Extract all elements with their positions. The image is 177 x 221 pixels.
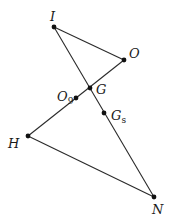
segment-h-n [28, 136, 154, 197]
label-n: N [151, 202, 164, 217]
label-o9: O9 [57, 89, 74, 106]
label-h: H [7, 136, 20, 151]
label-subscript-o9: 9 [68, 96, 74, 106]
point-g [88, 86, 93, 91]
segment-i-o [54, 27, 124, 60]
point-i [52, 25, 57, 30]
label-g: G [96, 82, 106, 97]
label-i: I [49, 9, 56, 24]
point-o9 [74, 96, 79, 101]
geometry-diagram: IOGO9GsHN [0, 0, 177, 221]
label-subscript-gs: s [121, 115, 126, 125]
point-o [122, 58, 127, 63]
point-h [26, 134, 31, 139]
point-gs [102, 111, 107, 116]
point-n [152, 195, 157, 200]
label-gs: Gs [111, 108, 126, 125]
labels-group: IOGO9GsHN [7, 9, 164, 217]
label-o: O [129, 46, 140, 61]
